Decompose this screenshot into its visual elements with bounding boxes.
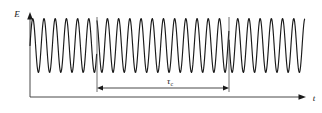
tau-subscript-c: c — [170, 81, 173, 87]
x-axis-label: t — [313, 93, 316, 103]
x-axis-arrowhead — [299, 94, 307, 100]
wave-segment-before-first-jump — [30, 19, 97, 73]
y-axis-arrowhead — [27, 12, 33, 20]
coherence-time-label: τc — [167, 76, 174, 87]
measure-arrowhead-left — [97, 85, 103, 90]
waveform-group — [30, 19, 305, 73]
wave-segment-after-second-jump — [229, 19, 305, 73]
y-axis-label: E — [13, 9, 20, 19]
figure-root: E t τc — [0, 0, 322, 113]
wave-segment-coherent-interval — [97, 19, 229, 73]
coherence-time-measure — [97, 85, 229, 90]
coherence-time-diagram: E t τc — [0, 0, 322, 113]
measure-arrowhead-right — [223, 85, 229, 90]
